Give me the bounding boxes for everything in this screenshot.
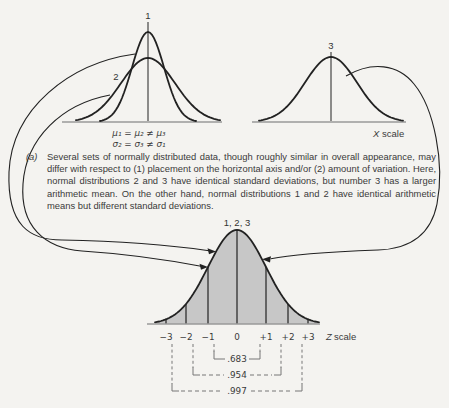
z-tick-minus-1: −1: [202, 332, 215, 342]
z-scale-word: scale: [334, 331, 356, 342]
x-scale-variable: X: [372, 128, 380, 139]
z-tick-plus-3: +3: [302, 332, 315, 342]
z-scale-variable: Z: [325, 331, 333, 342]
caption: (a) Several sets of normally distributed…: [26, 151, 436, 212]
standard-curve-peak-label: 1, 2, 3: [224, 217, 250, 228]
proportion-954: .954: [227, 370, 247, 380]
caption-tag: (a): [26, 151, 47, 212]
curve-2-label: 2: [113, 71, 118, 82]
proportion-997: .997: [227, 386, 247, 396]
caption-text: Several sets of normally distributed dat…: [47, 151, 436, 212]
bracket-954-left-corner: [193, 368, 200, 376]
curve-3-label: 3: [328, 40, 333, 51]
x-scale-word: scale: [382, 128, 404, 139]
z-tick-plus-2: +2: [282, 332, 295, 342]
bracket-683-right-corner: [249, 352, 260, 360]
z-tick-plus-1: +1: [260, 332, 273, 342]
figure-normal-distributions: 1 2 μ₁ = μ₂ ≠ μ₃ σ₂ = σ₃ ≠ σ₁ 3 X scale …: [0, 0, 449, 408]
z-tick-zero: 0: [234, 332, 240, 342]
bracket-954-right-corner: [274, 368, 281, 376]
z-tick-minus-2: −2: [180, 332, 193, 342]
curve-1-label: 1: [145, 10, 150, 21]
z-tick-minus-3: −3: [160, 332, 173, 342]
sd-equation: σ₂ = σ₃ ≠ σ₁: [112, 139, 166, 149]
proportion-683: .683: [227, 354, 247, 364]
mean-equation: μ₁ = μ₂ ≠ μ₃: [111, 128, 166, 138]
bracket-997-right-corner: [295, 384, 302, 392]
bracket-997-left-corner: [172, 384, 179, 392]
bracket-683-left-corner: [214, 352, 225, 360]
